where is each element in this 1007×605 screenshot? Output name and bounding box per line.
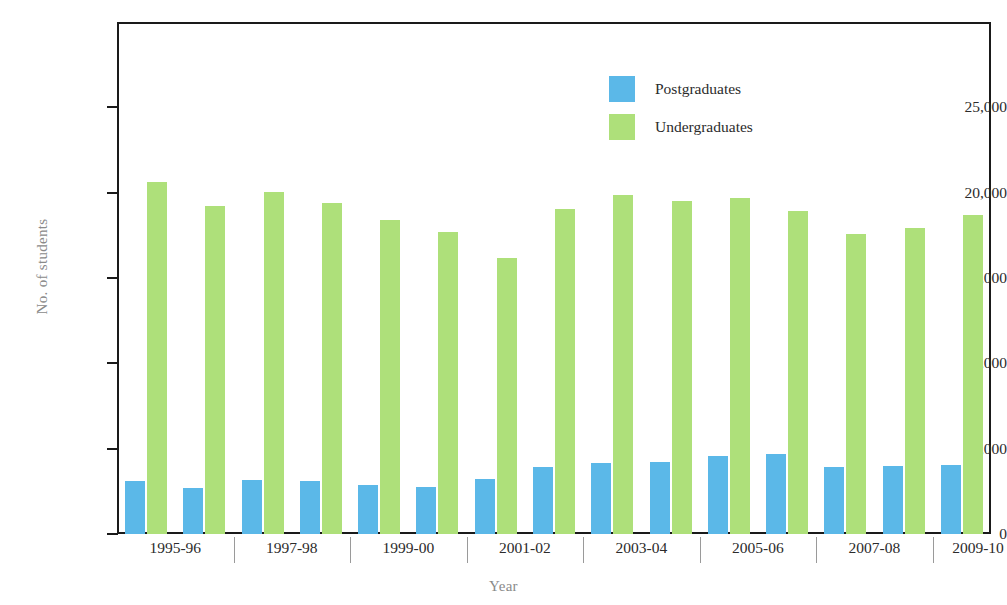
y-axis-title: No. of students [34, 187, 51, 347]
bar-postgraduates [766, 454, 786, 534]
legend-label-undergraduates: Undergraduates [655, 118, 753, 136]
bar-undergraduates [497, 258, 517, 534]
bar-postgraduates [650, 462, 670, 534]
x-group-separator [467, 537, 468, 563]
legend-item-postgraduates[interactable]: Postgraduates [609, 70, 753, 108]
x-group-separator [350, 537, 351, 563]
x-group-separator [234, 537, 235, 563]
bar-postgraduates [300, 481, 320, 534]
x-group-separator [700, 537, 701, 563]
bar-undergraduates [846, 234, 866, 534]
x-group-separator [583, 537, 584, 563]
bar-postgraduates [358, 485, 378, 534]
bar-undergraduates [672, 201, 692, 534]
bar-undergraduates [788, 211, 808, 534]
bar-postgraduates [475, 479, 495, 534]
x-tick-label: 2005-06 [732, 539, 784, 557]
bar-undergraduates [322, 203, 342, 534]
x-tick-label: 1995-96 [149, 539, 201, 557]
x-axis-title: Year [0, 578, 1007, 595]
bar-undergraduates [438, 232, 458, 534]
x-tick-label: 2007-08 [849, 539, 901, 557]
bar-series-layer [117, 22, 991, 534]
bar-chart: No. of students 05,00010,00015,00020,000… [0, 0, 1007, 605]
bar-undergraduates [963, 215, 983, 534]
bar-undergraduates [613, 195, 633, 534]
x-group-separator [816, 537, 817, 563]
bar-postgraduates [533, 467, 553, 534]
x-tick-label: 2001-02 [499, 539, 551, 557]
bar-postgraduates [416, 487, 436, 534]
legend-swatch-icon-undergraduates [609, 114, 635, 140]
bar-postgraduates [941, 465, 961, 534]
bar-undergraduates [147, 182, 167, 534]
x-tick-label: 1999-00 [382, 539, 434, 557]
x-group-separator [933, 537, 934, 563]
bar-postgraduates [125, 481, 145, 534]
x-tick-label: 2009-10 [952, 539, 1004, 557]
legend-label-postgraduates: Postgraduates [655, 80, 741, 98]
bar-postgraduates [708, 456, 728, 535]
bar-undergraduates [380, 220, 400, 534]
bar-postgraduates [824, 467, 844, 534]
bar-postgraduates [591, 463, 611, 534]
bar-undergraduates [264, 192, 284, 534]
bar-undergraduates [205, 206, 225, 534]
x-tick-label: 2003-04 [616, 539, 668, 557]
legend-item-undergraduates[interactable]: Undergraduates [609, 108, 753, 146]
bar-undergraduates [730, 198, 750, 534]
bar-postgraduates [183, 488, 203, 534]
legend-swatch-icon-postgraduates [609, 76, 635, 102]
x-tick-label: 1997-98 [266, 539, 318, 557]
bar-postgraduates [883, 466, 903, 534]
bar-undergraduates [905, 228, 925, 534]
legend: Postgraduates Undergraduates [609, 70, 753, 146]
bar-undergraduates [555, 209, 575, 534]
bar-postgraduates [242, 480, 262, 534]
